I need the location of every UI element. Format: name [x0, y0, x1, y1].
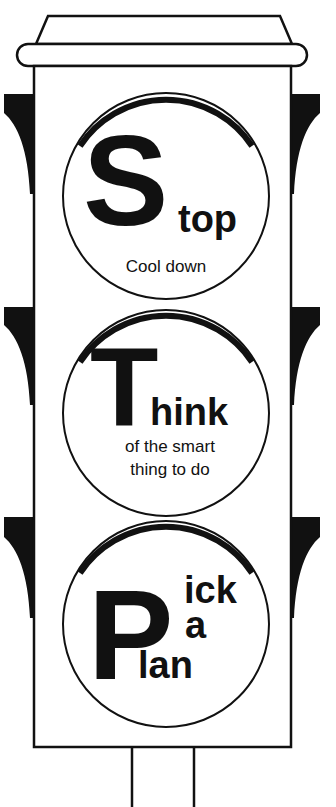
visor-right-bottom [290, 517, 320, 618]
visor-left-top [4, 94, 34, 194]
traffic-light-diagram: S top Cool down T hink of the smart thin… [0, 0, 336, 807]
plan-word-a: a [185, 604, 207, 646]
think-subtitle-line-2: thing to do [130, 460, 209, 479]
plan-word-lan: lan [138, 644, 193, 686]
visor-right-middle [290, 307, 320, 405]
visor-left-middle [4, 307, 34, 405]
light-stop: S top Cool down [63, 93, 269, 299]
stop-big-letter: S [83, 109, 168, 252]
pole [132, 747, 194, 807]
think-word-rest: hink [150, 391, 229, 433]
stop-word-rest: top [178, 198, 237, 240]
visor-right-top [290, 94, 320, 194]
light-pick-a-plan: P ick a lan [63, 521, 269, 727]
think-big-letter: T [90, 324, 158, 449]
visor-left-bottom [4, 517, 34, 618]
traffic-light-cap [17, 16, 307, 66]
light-think: T hink of the smart thing to do [63, 310, 269, 516]
think-subtitle-line-1: of the smart [125, 437, 215, 456]
stop-subtitle: Cool down [126, 257, 206, 276]
